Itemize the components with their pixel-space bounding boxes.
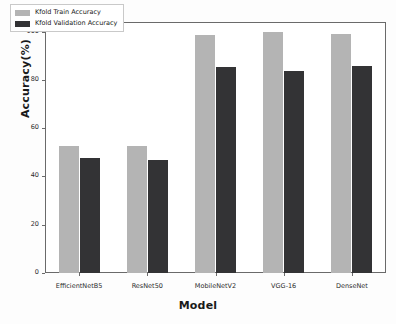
legend-label: Kfold Train Accuracy [35,8,101,17]
legend-entry: Kfold Train Accuracy [15,8,117,17]
chart-legend: Kfold Train AccuracyKfold Validation Acc… [10,4,124,32]
x-tick-mark [352,273,353,276]
y-tick-label: 60 [31,123,39,131]
legend-entry: Kfold Validation Accuracy [15,19,117,28]
legend-label: Kfold Validation Accuracy [35,19,117,28]
legend-swatch-train [15,10,30,16]
y-tick-mark [42,273,45,274]
y-tick-label: 0 [35,268,39,276]
bar-efficientnetb5-train [59,146,79,273]
y-tick-label: 20 [31,220,39,228]
y-axis-title: Accuracy(%) [19,19,32,139]
bars-layer [45,22,386,273]
bar-efficientnetb5-validation [80,158,100,273]
x-tick-mark [79,273,80,276]
bar-densenet-train [331,34,351,273]
bar-mobilenetv2-validation [216,67,236,273]
x-tick-mark [147,273,148,276]
bar-densenet-validation [352,66,372,273]
bar-resnet50-validation [148,160,168,273]
x-tick-mark [284,273,285,276]
bar-vgg-16-train [263,32,283,273]
bar-resnet50-train [127,146,147,273]
y-tick: 20 [0,225,45,226]
x-tick-mark [216,273,217,276]
y-tick: 40 [0,176,45,177]
y-tick: 0 [0,273,45,274]
x-axis-title: Model [0,299,396,312]
bar-vgg-16-validation [284,71,304,273]
legend-swatch-validation [15,21,30,27]
y-tick-label: 80 [31,75,39,83]
y-tick-label: 40 [31,171,39,179]
bar-mobilenetv2-train [195,35,215,273]
bar-chart-figure: 020406080100 Accuracy(%) EfficientNetB5R… [0,0,396,324]
x-tick-label: DenseNet [307,282,396,290]
